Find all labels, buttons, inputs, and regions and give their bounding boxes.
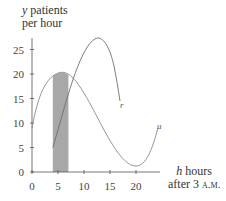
curve-label-u: u — [157, 121, 162, 131]
x-axis-text-2a: after 3 — [168, 177, 202, 191]
y-tick-label-20: 20 — [13, 68, 25, 80]
shaded-region — [53, 73, 69, 172]
x-axis-text-1: hours — [182, 164, 212, 178]
y-axis-label: y patients per hour — [22, 4, 68, 30]
y-axis-text-1: patients — [27, 3, 67, 17]
x-tick-label-10: 10 — [79, 180, 91, 192]
y-tick-label-15: 15 — [13, 93, 25, 105]
y-tick-label-10: 10 — [13, 117, 25, 129]
x-axis-text-2b: a.m. — [202, 178, 220, 190]
y-tick-label-5: 5 — [19, 142, 25, 154]
x-tick-label-20: 20 — [131, 180, 143, 192]
y-axis-text-2: per hour — [22, 17, 68, 30]
y-tick-label-0: 0 — [19, 166, 25, 178]
x-tick-label-15: 15 — [105, 180, 117, 192]
y-tick-label-25: 25 — [13, 44, 25, 56]
x-tick-label-5: 5 — [55, 180, 61, 192]
curve-label-r: r — [120, 100, 124, 110]
x-tick-label-0: 0 — [29, 180, 35, 192]
curve-u — [32, 72, 158, 166]
x-axis-label: h hours after 3 a.m. — [168, 165, 220, 191]
